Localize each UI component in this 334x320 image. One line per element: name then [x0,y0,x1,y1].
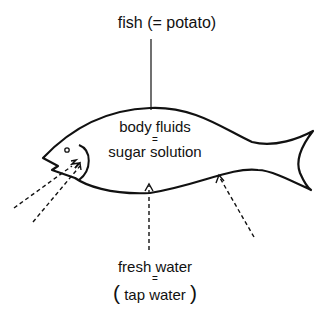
sugar-solution-text: sugar solution [90,144,220,160]
eye-icon [65,148,69,152]
equals-sign: = [90,275,220,283]
arrow-mouth-upper [14,166,72,208]
fresh-water-label: fresh water = ( tap water ) [90,259,220,305]
open-paren: ( [113,281,120,304]
close-paren: ) [190,281,197,304]
mouth-zigzag [71,160,79,168]
tap-water-text: tap water [124,286,186,303]
diagram-title: fish (= potato) [0,14,334,32]
arrow-belly-right [216,175,254,237]
tap-water-row: ( tap water ) [90,283,220,305]
body-fluids-label: body fluids = sugar solution [90,119,220,160]
body-fluids-text: body fluids [90,119,220,135]
